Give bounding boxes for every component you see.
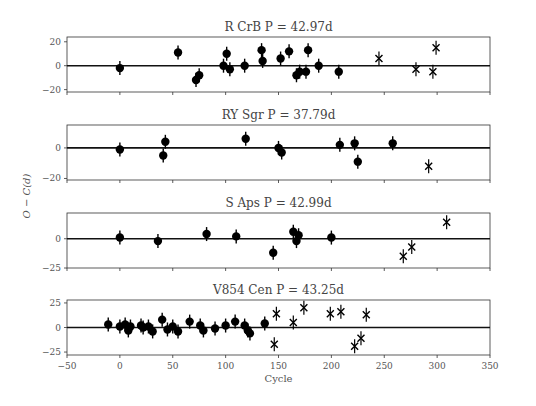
data-point xyxy=(335,67,343,75)
panel-2: S Aps P = 42.99d−250 xyxy=(42,196,490,273)
data-point xyxy=(246,329,254,337)
panel-title: V854 Cen P = 43.25d xyxy=(212,283,344,297)
data-point xyxy=(336,141,344,149)
data-point xyxy=(240,61,248,69)
data-point xyxy=(269,249,277,257)
data-point xyxy=(304,46,312,54)
data-point xyxy=(314,61,322,69)
x-tick-label: 0 xyxy=(117,361,123,371)
data-point xyxy=(126,322,134,330)
y-tick-label: 0 xyxy=(55,234,61,244)
data-point xyxy=(389,139,397,147)
data-point xyxy=(261,319,269,327)
data-point xyxy=(158,315,166,323)
panel-title: S Aps P = 42.99d xyxy=(225,196,331,210)
data-point xyxy=(285,47,293,55)
y-tick-label: 20 xyxy=(50,37,62,47)
figure: R CrB P = 42.97d−20020RY Sgr P = 37.79d−… xyxy=(0,0,536,406)
data-point xyxy=(161,138,169,146)
data-point xyxy=(258,57,266,65)
data-point xyxy=(242,135,250,143)
y-tick-label: 0 xyxy=(55,61,61,71)
data-point xyxy=(232,232,240,240)
data-point xyxy=(116,233,124,241)
y-tick-label: −20 xyxy=(42,173,61,183)
panel-title: RY Sgr P = 37.79d xyxy=(222,108,336,122)
data-point xyxy=(354,157,362,165)
x-tick-label: 200 xyxy=(323,361,340,371)
plot-frame xyxy=(67,37,490,92)
data-point xyxy=(302,67,310,75)
data-point xyxy=(174,48,182,56)
data-point xyxy=(231,317,239,325)
y-tick-label: −25 xyxy=(42,263,61,273)
x-tick-label: 50 xyxy=(167,361,179,371)
x-tick-label: 300 xyxy=(429,361,446,371)
y-tick-label: −20 xyxy=(42,85,61,95)
x-tick-label: 100 xyxy=(217,361,234,371)
x-tick-label: 250 xyxy=(376,361,393,371)
y-tick-label: −25 xyxy=(42,347,61,357)
x-tick-label: 350 xyxy=(481,361,498,371)
panel-3: V854 Cen P = 43.25d−25025−50050100150200… xyxy=(42,283,499,371)
data-point xyxy=(159,151,167,159)
panel-0: R CrB P = 42.97d−20020 xyxy=(42,20,490,95)
data-point xyxy=(116,64,124,72)
x-axis-label: Cycle xyxy=(264,373,292,384)
data-point xyxy=(277,148,285,156)
x-tick-label: 150 xyxy=(270,361,287,371)
data-point xyxy=(154,237,162,245)
data-point xyxy=(211,324,219,332)
data-point xyxy=(104,320,112,328)
plot-frame xyxy=(67,213,490,268)
data-point xyxy=(327,233,335,241)
data-point xyxy=(185,317,193,325)
x-tick-label: −50 xyxy=(58,361,77,371)
panel-1: RY Sgr P = 37.79d−200 xyxy=(42,108,490,183)
data-point xyxy=(226,65,234,73)
data-point xyxy=(116,145,124,153)
data-point xyxy=(174,327,182,335)
data-point xyxy=(221,321,229,329)
data-point xyxy=(195,71,203,79)
data-point xyxy=(294,231,302,239)
data-point xyxy=(276,54,284,62)
y-axis-label: O − C(d) xyxy=(21,174,32,219)
data-point xyxy=(350,139,358,147)
y-tick-label: 0 xyxy=(55,323,61,333)
y-tick-label: 25 xyxy=(50,298,62,308)
data-point xyxy=(257,46,265,54)
data-point xyxy=(148,327,156,335)
y-tick-label: 0 xyxy=(55,143,61,153)
data-point xyxy=(202,230,210,238)
data-point xyxy=(199,326,207,334)
panel-title: R CrB P = 42.97d xyxy=(224,20,333,34)
data-point xyxy=(222,50,230,58)
